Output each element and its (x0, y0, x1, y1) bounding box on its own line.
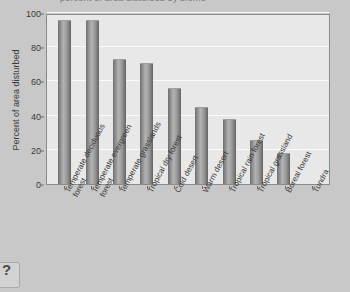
y-tick-label: 80 (31, 43, 41, 53)
bar[interactable] (195, 107, 208, 184)
y-tick-mark (41, 116, 44, 117)
y-tick-mark (41, 185, 44, 186)
y-tick-label: 60 (31, 77, 41, 87)
bar-slot (51, 15, 78, 184)
y-tick-label: 20 (31, 146, 41, 156)
y-tick-label: 40 (31, 112, 41, 122)
help-widget[interactable]: ? (0, 262, 20, 288)
y-tick-label: 100 (26, 9, 41, 19)
bar-chart: Percent of area disturbed 020406080100 T… (0, 0, 350, 292)
bar[interactable] (140, 63, 153, 184)
y-tick-mark (41, 14, 44, 15)
y-axis-title: Percent of area disturbed (9, 14, 23, 185)
gridline (47, 12, 329, 13)
y-tick-mark (41, 48, 44, 49)
y-axis-ticks: 020406080100 (22, 14, 44, 185)
y-tick-mark (41, 150, 44, 151)
question-mark-icon: ? (2, 261, 11, 278)
x-axis-labels: Temperate deciduousforestTemperate everg… (46, 186, 330, 292)
y-tick-mark (41, 82, 44, 83)
bar[interactable] (58, 20, 71, 184)
y-axis-title-label: Percent of area disturbed (11, 49, 21, 150)
